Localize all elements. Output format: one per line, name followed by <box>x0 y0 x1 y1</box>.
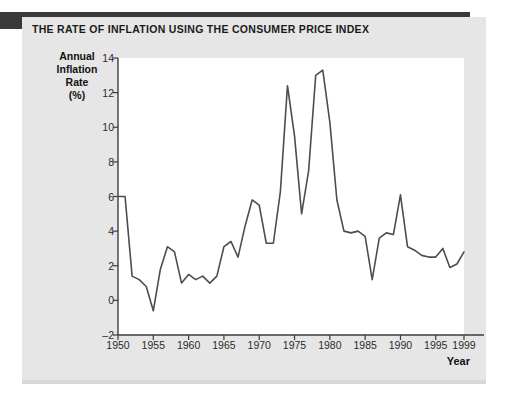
axis-ticks <box>113 58 464 340</box>
axis-lines <box>118 58 484 335</box>
panel-bottom-strip <box>22 380 486 384</box>
chart-panel: THE RATE OF INFLATION USING THE CONSUMER… <box>22 17 486 380</box>
chart-svg <box>22 17 486 380</box>
inflation-line <box>118 70 464 311</box>
